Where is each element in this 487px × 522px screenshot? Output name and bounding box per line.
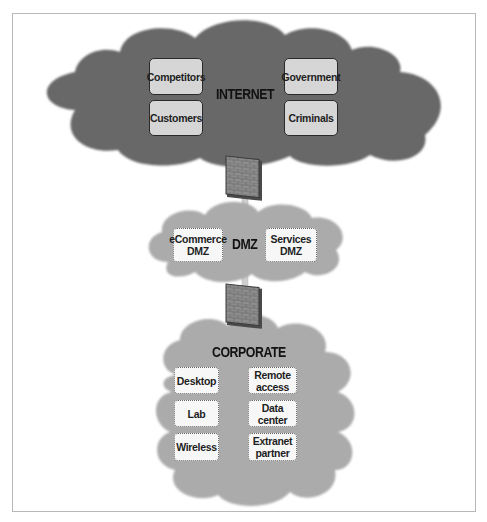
node-criminals: Criminals	[284, 100, 338, 136]
node-line: Data	[262, 402, 284, 414]
node-extranet-partner: Extranet partner	[248, 433, 297, 461]
node-line: Desktop	[177, 375, 216, 387]
node-remote-access: Remote access	[248, 367, 297, 394]
node-line: access	[256, 381, 289, 393]
node-line: partner	[255, 447, 289, 459]
node-line: eCommerce	[169, 233, 226, 245]
node-line: Lab	[188, 408, 206, 420]
node-line: center	[258, 414, 288, 426]
node-services-dmz: Services DMZ	[265, 228, 317, 262]
node-data-center: Data center	[248, 400, 297, 427]
firewall-icon	[226, 156, 262, 201]
node-customers: Customers	[149, 100, 203, 136]
node-line: Services	[271, 233, 312, 245]
node-desktop: Desktop	[174, 367, 219, 394]
node-government: Government	[284, 58, 338, 95]
node-competitors: Competitors	[149, 58, 203, 95]
dmz-label: DMZ	[232, 236, 257, 252]
corporate-label: CORPORATE	[212, 344, 286, 360]
node-line: Wireless	[176, 441, 217, 453]
node-ecommerce-dmz: eCommerce DMZ	[173, 228, 223, 262]
node-line: DMZ	[187, 245, 209, 257]
internet-label: INTERNET	[216, 86, 274, 102]
node-line: Extranet	[253, 435, 293, 447]
node-lab: Lab	[174, 400, 219, 427]
firewall-icon	[226, 284, 262, 329]
node-line: Remote	[254, 369, 291, 381]
node-wireless: Wireless	[174, 433, 219, 461]
node-line: DMZ	[280, 245, 302, 257]
